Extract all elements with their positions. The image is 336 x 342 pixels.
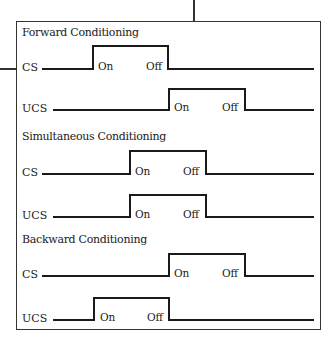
simultaneous-ucs-off: Off — [183, 208, 199, 220]
forward-cs-on: On — [98, 60, 113, 72]
backward-cs-on: On — [174, 267, 189, 279]
forward-cs-off: Off — [146, 60, 162, 72]
simultaneous-ucs-on: On — [135, 208, 150, 220]
simultaneous-cs-waveform — [42, 151, 314, 174]
backward-ucs-on: On — [100, 311, 115, 323]
section-title-simultaneous: Simultaneous Conditioning — [22, 130, 166, 143]
backward-cs-label: CS — [22, 268, 38, 281]
forward-ucs-on: On — [174, 101, 189, 113]
simultaneous-cs-on: On — [135, 165, 150, 177]
section-title-forward: Forward Conditioning — [22, 26, 139, 39]
forward-ucs-off: Off — [222, 101, 238, 113]
forward-cs-waveform — [42, 46, 314, 69]
simultaneous-ucs-label: UCS — [22, 209, 47, 222]
forward-cs-label: CS — [22, 61, 38, 74]
simultaneous-cs-label: CS — [22, 166, 38, 179]
backward-ucs-waveform — [53, 298, 314, 320]
waveforms — [0, 0, 336, 342]
backward-ucs-label: UCS — [22, 312, 47, 325]
forward-ucs-label: UCS — [22, 102, 47, 115]
section-title-backward: Backward Conditioning — [22, 233, 147, 246]
simultaneous-cs-off: Off — [183, 165, 199, 177]
backward-cs-off: Off — [222, 267, 238, 279]
backward-ucs-off: Off — [147, 311, 163, 323]
